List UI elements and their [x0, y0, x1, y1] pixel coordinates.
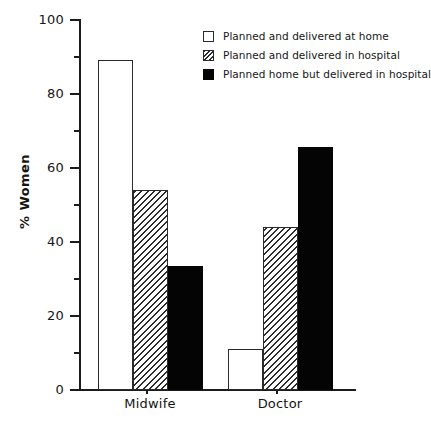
- open-square-icon: [203, 31, 214, 42]
- hatched-square-icon: [203, 50, 214, 61]
- y-tick-60: [70, 167, 80, 169]
- legend-label-planned-delivered-hospital: Planned and delivered in hospital: [223, 50, 400, 61]
- y-tick-label-0: 0: [24, 383, 64, 396]
- bar-doctor-planned-home-delivered-hospital: [298, 147, 333, 390]
- bar-midwife-planned-home-delivered-hospital: [168, 266, 203, 390]
- y-tick-label-80: 80: [24, 87, 64, 100]
- legend-label-planned-home-delivered-hospital: Planned home but delivered in hospital: [223, 69, 431, 80]
- legend-item-planned-delivered-hospital: Planned and delivered in hospital: [203, 47, 413, 64]
- filled-square-icon: [203, 69, 214, 80]
- y-tick-label-40: 40: [24, 235, 64, 248]
- y-minor-tick-70: [74, 130, 80, 132]
- y-axis-title: % Women: [17, 147, 32, 237]
- y-tick-80: [70, 93, 80, 95]
- legend-label-planned-delivered-home: Planned and delivered at home: [223, 31, 389, 42]
- bar-doctor-planned-delivered-hospital: [263, 227, 298, 390]
- y-minor-tick-30: [74, 278, 80, 280]
- y-tick-40: [70, 241, 80, 243]
- y-tick-label-20: 20: [24, 309, 64, 322]
- y-tick-20: [70, 315, 80, 317]
- y-tick-label-100: 100: [24, 13, 64, 26]
- y-tick-0: [70, 389, 80, 391]
- legend-item-planned-delivered-home: Planned and delivered at home: [203, 28, 413, 45]
- bar-midwife-planned-delivered-hospital: [133, 190, 168, 390]
- y-minor-tick-50: [74, 204, 80, 206]
- chart-legend: Planned and delivered at home Planned an…: [203, 28, 413, 85]
- bar-midwife-planned-delivered-home: [98, 60, 133, 390]
- x-axis-label-doctor: Doctor: [220, 396, 340, 411]
- y-minor-tick-10: [74, 352, 80, 354]
- bar-doctor-planned-delivered-home: [228, 349, 263, 390]
- x-axis-label-midwife: Midwife: [90, 396, 210, 411]
- legend-item-planned-home-delivered-hospital: Planned home but delivered in hospital: [203, 66, 413, 83]
- y-minor-tick-90: [74, 56, 80, 58]
- y-tick-100: [70, 19, 80, 21]
